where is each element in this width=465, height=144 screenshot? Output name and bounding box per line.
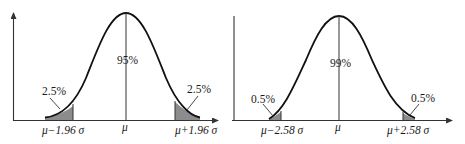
right-tail-label: 2.5% <box>187 83 211 95</box>
x-tick-mean: μ <box>121 121 128 134</box>
right-tail-leader <box>187 96 198 110</box>
x-tick-lower: μ−1.96 σ <box>41 124 86 137</box>
left-tail-leader <box>263 104 273 116</box>
right-tail-label: 0.5% <box>411 92 435 104</box>
x-tick-mean: μ <box>334 121 341 134</box>
right-tail-leader <box>410 104 419 115</box>
chart-95-percent: 95% 2.5% 2.5% μ−1.96 σ μ μ+1.96 σ <box>13 13 219 137</box>
figure: 95% 2.5% 2.5% μ−1.96 σ μ μ+1.96 σ 99% 0.… <box>0 0 465 144</box>
chart-99-percent: 99% 0.5% 0.5% μ−2.58 σ μ μ+2.58 σ <box>232 16 452 137</box>
x-tick-upper: μ+2.58 σ <box>386 124 431 137</box>
x-tick-lower: μ−2.58 σ <box>260 124 305 137</box>
x-tick-upper: μ+1.96 σ <box>174 124 219 137</box>
left-tail-label: 2.5% <box>42 85 66 97</box>
central-area-label: 95% <box>117 54 139 66</box>
left-tail-label: 0.5% <box>251 93 275 105</box>
central-area-label: 99% <box>330 57 352 69</box>
left-tail-leader <box>50 98 60 109</box>
